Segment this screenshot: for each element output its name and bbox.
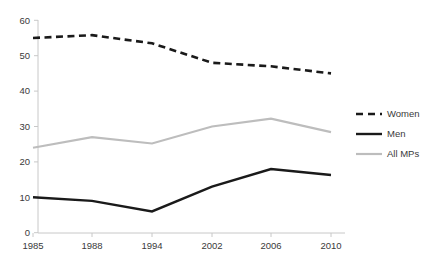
y-tick-label: 50: [19, 50, 30, 61]
y-tick-label: 60: [19, 15, 30, 26]
x-axis-ticks: [33, 233, 331, 237]
y-tick-label: 30: [19, 121, 30, 132]
x-tick-label: 1994: [141, 240, 162, 251]
x-tick-label: 2002: [201, 240, 222, 251]
legend-item-all-mps[interactable]: All MPs: [356, 148, 419, 159]
series-group: [33, 35, 331, 211]
x-tick-label: 2010: [320, 240, 341, 251]
legend-item-men[interactable]: Men: [356, 128, 405, 139]
legend-item-women[interactable]: Women: [356, 108, 420, 119]
x-axis-tick-labels: 1985 1988 1994 2002 2006 2010: [22, 240, 341, 251]
y-tick-label: 0: [25, 227, 30, 238]
legend-label-all-mps: All MPs: [387, 148, 419, 159]
series-line-men: [33, 169, 331, 211]
y-tick-label: 40: [19, 85, 30, 96]
legend-label-men: Men: [387, 128, 405, 139]
x-tick-label: 1988: [81, 240, 102, 251]
y-tick-label: 20: [19, 156, 30, 167]
y-tick-label: 10: [19, 192, 30, 203]
y-axis-ticks: [34, 20, 38, 232]
line-chart: 0 10 20 30 40 50 60 1985 1988 1994 2002 …: [0, 0, 426, 263]
series-line-all-mps: [33, 119, 331, 148]
series-line-women: [33, 35, 331, 73]
chart-canvas: 0 10 20 30 40 50 60 1985 1988 1994 2002 …: [0, 0, 426, 263]
chart-legend: Women Men All MPs: [356, 108, 420, 159]
x-tick-label: 2006: [260, 240, 281, 251]
x-tick-label: 1985: [22, 240, 43, 251]
legend-label-women: Women: [387, 108, 420, 119]
y-axis-tick-labels: 0 10 20 30 40 50 60: [19, 15, 30, 238]
